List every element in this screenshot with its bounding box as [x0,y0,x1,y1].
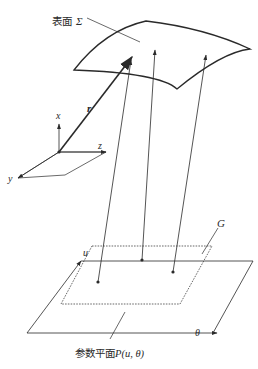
surface-label-text: 表面 [52,15,72,27]
axis-theta-label: θ [195,328,200,338]
mapping-arrow-2 [142,50,155,260]
domain-point-2 [140,258,143,261]
parametric-mapping-diagram: 表面 Σ r x z y G u θ 参数平面P(u, θ) [0,0,258,369]
u-axis [27,261,81,333]
parameter-plane-leader [110,312,125,339]
parameter-plane-text: 参数平面 [75,347,115,359]
axis-x-label: x [56,111,60,121]
vector-r-label: r [87,103,91,114]
surface-symbol: Σ [76,15,83,27]
mapping-arrows [98,50,206,282]
coordinate-frame [18,124,106,178]
axis-z-label: z [98,141,102,151]
parameter-plane-func: P(u, θ) [115,348,144,359]
domain-g-label: G [217,218,225,229]
surface-label: 表面 Σ [52,12,83,28]
domain-point-3 [171,270,174,273]
domain-point-1 [96,280,99,283]
surface-sigma [74,21,250,89]
y-axis [18,152,59,178]
axis-u-label: u [83,248,88,258]
parameter-plane [27,261,253,333]
surface-label-leader [87,18,140,42]
mapping-arrow-1 [98,60,131,282]
parameter-plane-label: 参数平面P(u, θ) [75,344,144,360]
axis-y-label: y [8,174,12,184]
